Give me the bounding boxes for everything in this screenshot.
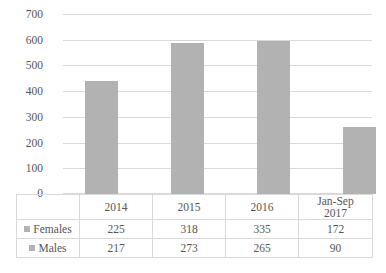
ytick-label-700: 700: [0, 9, 43, 20]
category-cell-2014: 2014: [80, 195, 153, 220]
legend-item-females[interactable]: Females: [17, 220, 80, 239]
category-cell-jan-sep-2017: Jan-Sep 2017: [299, 195, 373, 220]
category-label-line1: 2016: [226, 201, 298, 213]
gridline-500: [63, 65, 372, 66]
table-row-males: Males 217 273 265 90: [17, 239, 373, 258]
category-label-line1: 2014: [80, 201, 152, 213]
gridline-600: [63, 40, 372, 41]
gridline-700: [63, 14, 372, 15]
table-corner-cell: [17, 195, 80, 220]
table-row-categories: 2014 2015 2016 Jan-Sep 2017: [17, 195, 373, 220]
category-label-line1: 2015: [153, 201, 225, 213]
category-cell-2015: 2015: [153, 195, 226, 220]
legend-label-males: Males: [38, 243, 66, 255]
category-cell-2016: 2016: [226, 195, 299, 220]
data-table: 2014 2015 2016 Jan-Sep 2017 Females 225: [16, 194, 373, 258]
bar-2016[interactable]: [257, 41, 290, 194]
bar-2014[interactable]: [85, 81, 118, 194]
legend-square-icon: [29, 245, 35, 251]
table-row-females: Females 225 318 335 172: [17, 220, 373, 239]
cell-males-2014: 217: [80, 239, 153, 258]
plot-area: 700 600 500 400 300 200 100 0: [63, 14, 372, 194]
category-label-line2: 2017: [299, 207, 372, 219]
ytick-label-300: 300: [0, 112, 43, 123]
cell-females-2014: 225: [80, 220, 153, 239]
legend-square-icon: [24, 226, 30, 232]
cell-females-2015: 318: [153, 220, 226, 239]
ytick-label-400: 400: [0, 86, 43, 97]
cell-males-jan-sep-2017: 90: [299, 239, 373, 258]
category-label-line1: Jan-Sep: [299, 195, 372, 207]
cell-males-2015: 273: [153, 239, 226, 258]
ytick-label-500: 500: [0, 60, 43, 71]
legend-label-females: Females: [33, 224, 71, 236]
bar-2015[interactable]: [171, 43, 204, 194]
ytick-label-100: 100: [0, 163, 43, 174]
ytick-label-600: 600: [0, 35, 43, 46]
cell-males-2016: 265: [226, 239, 299, 258]
cell-females-2016: 335: [226, 220, 299, 239]
chart-container: 700 600 500 400 300 200 100 0 2014: [0, 0, 386, 273]
cell-females-jan-sep-2017: 172: [299, 220, 373, 239]
bar-jan-sep-2017[interactable]: [343, 127, 376, 194]
legend-item-males[interactable]: Males: [17, 239, 80, 258]
ytick-label-200: 200: [0, 138, 43, 149]
